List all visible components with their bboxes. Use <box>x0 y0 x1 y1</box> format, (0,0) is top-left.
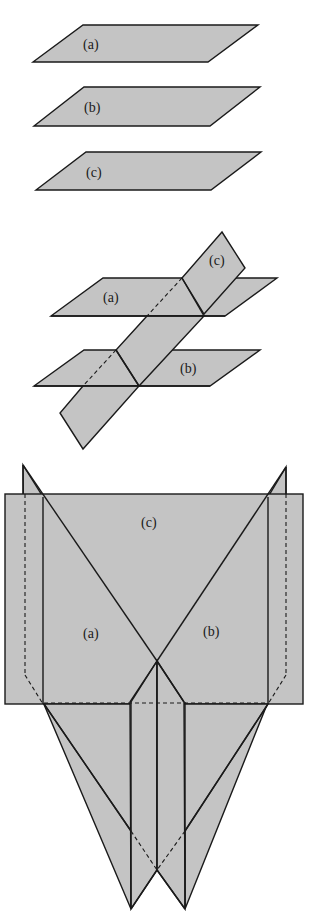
label-plane-b: (b) <box>84 100 101 116</box>
label-plane-c: (c) <box>141 515 157 531</box>
plane-a <box>51 278 277 316</box>
label-plane-a: (a) <box>83 626 99 642</box>
plane-b <box>34 87 260 126</box>
panel-common-line: (c) (a) (b) <box>5 465 303 909</box>
label-plane-c: (c) <box>209 253 225 269</box>
label-plane-a: (a) <box>103 290 119 306</box>
label-plane-c: (c) <box>86 165 102 181</box>
panel-parallel-planes: (a) (b) (c) <box>33 25 261 190</box>
plane-a <box>33 25 258 62</box>
plane-c <box>36 152 261 190</box>
planes-figure: (a) (b) (c) (a) (b) (c) <box>0 0 319 914</box>
label-plane-b: (b) <box>203 624 220 640</box>
panel-transversal: (a) (b) (c) <box>34 232 277 449</box>
label-plane-b: (b) <box>180 361 197 377</box>
plane-c-bottom <box>60 386 139 449</box>
label-plane-a: (a) <box>83 37 99 53</box>
